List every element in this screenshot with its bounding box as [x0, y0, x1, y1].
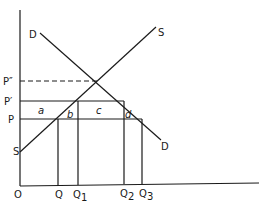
q2-label-main: Q [120, 188, 128, 199]
supply-label-top: S [158, 27, 164, 38]
quantity-axis [20, 183, 259, 186]
demand-label-top: D [29, 29, 37, 40]
q2-label-sub: 2 [128, 191, 134, 202]
p-prime-label: P′ [4, 96, 13, 107]
p-label: P [8, 114, 14, 125]
q3-label: Q3 [139, 188, 153, 202]
area-c-label: c [96, 105, 102, 116]
area-a-label: a [38, 105, 44, 116]
q1-label: Q1 [73, 189, 87, 203]
area-b-label: b [67, 109, 73, 120]
q1-label-main: Q [73, 189, 81, 200]
q2-label: Q2 [120, 188, 134, 202]
supply-label-bottom: S [13, 146, 19, 157]
q1-label-sub: 1 [81, 192, 87, 203]
q-label: Q [55, 189, 63, 200]
area-d-label: d [125, 109, 132, 120]
supply-demand-diagram: D D S S P″ P′ P a b c d O Q Q1 Q2 Q3 [0, 0, 259, 204]
q3-label-main: Q [139, 188, 147, 199]
p-double-prime-label: P″ [3, 76, 13, 87]
origin-label: O [14, 189, 22, 200]
supply-curve [20, 27, 156, 152]
q3-label-sub: 3 [147, 191, 153, 202]
demand-label-bottom: D [161, 141, 169, 152]
